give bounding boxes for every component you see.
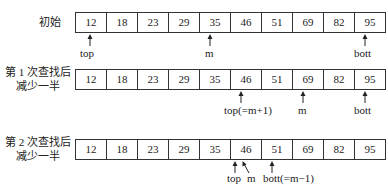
row-label-second-search: 第 2 次查找后 减少一半 — [0, 135, 76, 163]
up-arrow-icon — [237, 91, 245, 103]
pointer-m: m — [205, 47, 214, 59]
array-cell: 69 — [293, 70, 324, 89]
array-cell: 82 — [324, 13, 355, 32]
array-cell: 51 — [262, 140, 293, 159]
array-cell: 46 — [231, 140, 262, 159]
array-cell: 29 — [169, 70, 200, 89]
array-cell: 18 — [107, 70, 138, 89]
array-cell: 29 — [169, 140, 200, 159]
array-cell: 35 — [200, 13, 231, 32]
array-cell: 82 — [324, 140, 355, 159]
row-label-first-line2: 减少一半 — [0, 79, 76, 93]
pointer-m: m — [298, 104, 307, 116]
up-arrow-icon — [361, 91, 369, 103]
pointer-top: top — [227, 172, 241, 184]
array-after-second-search: 12 18 23 29 35 46 51 69 82 95 — [75, 139, 386, 160]
pointer-top: top — [80, 47, 94, 59]
array-cell: 29 — [169, 13, 200, 32]
array-cell: 23 — [138, 140, 169, 159]
array-cell: 23 — [138, 13, 169, 32]
pointer-bott: bott(=m−1) — [263, 172, 314, 184]
array-cell: 18 — [107, 13, 138, 32]
array-cell: 69 — [293, 13, 324, 32]
array-cell: 82 — [324, 70, 355, 89]
pointer-bott: bott — [354, 47, 371, 59]
up-arrow-icon — [299, 91, 307, 103]
array-cell: 12 — [76, 140, 107, 159]
row-label-second-line1: 第 2 次查找后 — [0, 135, 76, 149]
array-initial: 12 18 23 29 35 46 51 69 82 95 — [75, 12, 386, 33]
pointer-m: m — [247, 172, 256, 184]
array-after-first-search: 12 18 23 29 35 46 51 69 82 95 — [75, 69, 386, 90]
array-cell: 18 — [107, 140, 138, 159]
array-cell: 12 — [76, 70, 107, 89]
row-label-first-search: 第 1 次查找后 减少一半 — [0, 65, 76, 93]
pointer-bott: bott — [354, 104, 371, 116]
up-arrow-icon — [361, 34, 369, 46]
array-cell: 51 — [262, 13, 293, 32]
array-cell: 51 — [262, 70, 293, 89]
array-cell: 46 — [231, 70, 262, 89]
up-arrow-icon — [86, 34, 94, 46]
array-cell: 95 — [355, 13, 385, 32]
array-cell: 95 — [355, 70, 385, 89]
array-cell: 69 — [293, 140, 324, 159]
row-label-first-line1: 第 1 次查找后 — [0, 65, 76, 79]
up-arrow-icon — [206, 34, 214, 46]
array-cell: 12 — [76, 13, 107, 32]
array-cell: 46 — [231, 13, 262, 32]
pointer-top: top(=m+1) — [224, 104, 272, 116]
row-label-initial: 初始 — [28, 15, 72, 29]
array-cell: 35 — [200, 70, 231, 89]
row-label-second-line2: 减少一半 — [0, 149, 76, 163]
array-cell: 23 — [138, 70, 169, 89]
array-cell: 95 — [355, 140, 385, 159]
array-cell: 35 — [200, 140, 231, 159]
